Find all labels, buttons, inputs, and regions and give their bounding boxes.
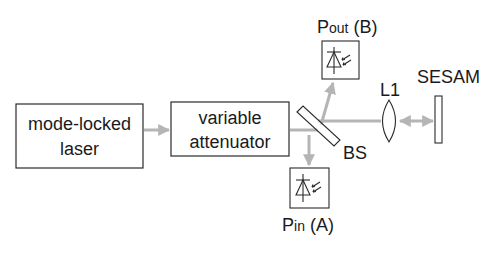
photodiode-out: Pout (B) (317, 17, 377, 79)
laser-label-line2: laser (60, 139, 99, 159)
optical-setup-diagram: mode-locked laser variable attenuator BS… (0, 0, 504, 253)
sesam: SESAM (417, 67, 480, 143)
sesam-label: SESAM (417, 67, 480, 87)
attenuator-block: variable attenuator (171, 102, 289, 156)
pin-label: Pin (A) (282, 215, 334, 235)
beam-bs-to-pout (321, 83, 333, 125)
photodiode-in: Pin (A) (282, 168, 334, 235)
laser-label-line1: mode-locked (28, 114, 131, 134)
lens-l1: L1 (380, 80, 400, 142)
pout-label: Pout (B) (317, 17, 377, 37)
lens-label: L1 (380, 80, 400, 100)
bs-label: BS (343, 143, 367, 163)
attenuator-label-line1: variable (198, 108, 261, 128)
attenuator-label-line2: attenuator (189, 132, 270, 152)
laser-block: mode-locked laser (16, 104, 143, 168)
